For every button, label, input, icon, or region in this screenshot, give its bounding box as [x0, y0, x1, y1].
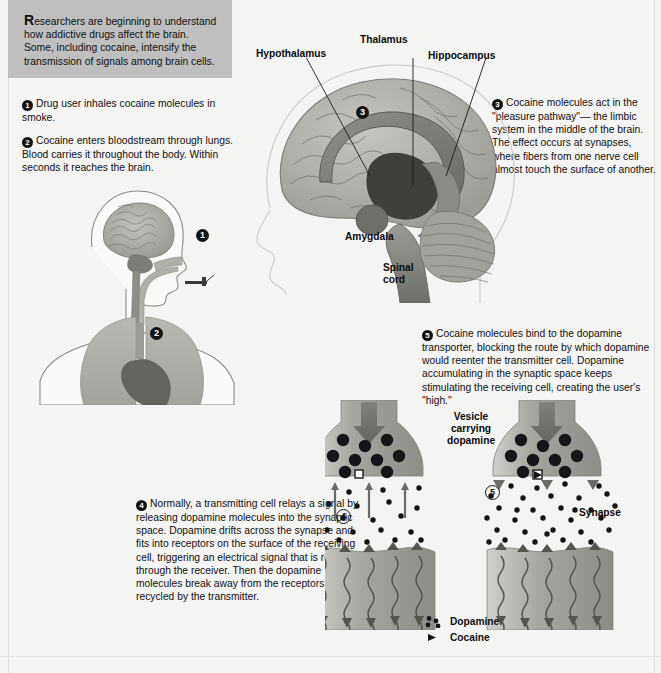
infographic-page: Researchers are beginning to understand …: [0, 0, 661, 673]
page-edge-bottom: [0, 656, 661, 657]
label-hippocampus: Hippocampus: [428, 50, 495, 62]
intro-text: esearchers are beginning to understand h…: [24, 16, 216, 67]
intro-dropcap: R: [24, 12, 34, 28]
label-hypothalamus: Hypothalamus: [256, 48, 326, 60]
cocaine-swatch-icon: [424, 631, 446, 644]
step-1-text: Drug user inhales cocaine molecules in s…: [22, 98, 215, 123]
label-synapse: Synapse: [579, 507, 621, 519]
legend-row-cocaine: Cocaine: [424, 630, 499, 645]
step-5-number: 5: [422, 330, 433, 341]
label-vesicle-carrying-dopamine: Vesicle carrying dopamine: [436, 411, 506, 447]
step-2-number: 2: [22, 137, 33, 148]
face-profile-outline: [257, 210, 286, 294]
step-4-number: 4: [136, 500, 147, 511]
label-thalamus: Thalamus: [360, 34, 408, 46]
step-5-text: Cocaine molecules bind to the dopamine t…: [422, 328, 649, 406]
legend-row-dopamine: Dopamine: [424, 614, 499, 628]
cigarette-icon: [185, 277, 207, 286]
reuptake-arrowheads-left: [331, 482, 409, 490]
dopamine-swatch-icon: [424, 615, 446, 628]
label-spinal-cord: Spinal cord: [383, 262, 414, 286]
step-2-text: Cocaine enters bloodstream through lungs…: [22, 135, 233, 173]
step-2-note: 2Cocaine enters bloodstream through lung…: [22, 134, 240, 174]
step-1-note: 1Drug user inhales cocaine molecules in …: [22, 97, 237, 124]
intro-box: Researchers are beginning to understand …: [8, 0, 232, 78]
marker-inhale: 1: [196, 229, 209, 242]
page-edge-left: [8, 0, 9, 673]
legend-label-cocaine: Cocaine: [450, 632, 490, 643]
marker-cocaine-synapse: 5: [485, 485, 500, 500]
legend-label-dopamine: Dopamine: [450, 616, 499, 627]
marker-brain-pathway: 3: [356, 106, 369, 119]
step-5-note: 5Cocaine molecules bind to the dopamine …: [422, 327, 654, 407]
trachea: [136, 323, 144, 359]
step-1-number: 1: [22, 100, 33, 111]
marker-lungs: 2: [150, 327, 163, 340]
intro-paragraph: Researchers are beginning to understand …: [24, 14, 218, 68]
leader-inhale: [207, 275, 214, 281]
legend: Dopamine Cocaine: [424, 614, 499, 645]
marker-normal-synapse: 4: [336, 509, 351, 524]
label-amygdala: Amygdala: [345, 231, 394, 243]
dopamine-transporter-left: [355, 470, 363, 478]
